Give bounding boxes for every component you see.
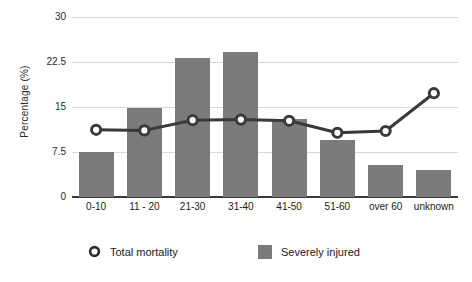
- legend-label: Total mortality: [110, 246, 178, 258]
- data-point-marker: [236, 115, 245, 124]
- x-tick-label: unknown: [410, 201, 458, 212]
- data-point-marker: [429, 89, 438, 98]
- x-tick-label: 0-10: [72, 201, 120, 212]
- data-point-marker: [92, 125, 101, 134]
- x-tick-label: over 60: [362, 201, 410, 212]
- y-axis-title: Percentage (%): [19, 32, 30, 172]
- legend-item-severely-injured: Severely injured: [258, 245, 360, 259]
- line-series-total-mortality: [72, 17, 458, 197]
- chart-container: Percentage (%) 30 22.5 15 7.5 0 0-1011 -…: [0, 0, 472, 282]
- x-tick-label: 11 - 20: [120, 201, 168, 212]
- plot-area: [72, 17, 458, 197]
- circle-open-icon: [88, 245, 101, 258]
- data-point-marker: [333, 128, 342, 137]
- square-swatch-icon: [258, 245, 272, 259]
- data-point-marker: [140, 126, 149, 135]
- data-point-marker: [285, 116, 294, 125]
- legend-label: Severely injured: [281, 246, 360, 258]
- y-tick-label: 0: [20, 191, 66, 202]
- x-tick-label: 41-50: [265, 201, 313, 212]
- x-axis-tick-labels: 0-1011 - 2021-3031-4041-5051-60over 60un…: [72, 201, 458, 217]
- data-point-marker: [381, 126, 390, 135]
- chart-legend: Total mortality Severely injured: [0, 243, 472, 267]
- x-tick-label: 21-30: [169, 201, 217, 212]
- data-point-marker: [188, 116, 197, 125]
- x-tick-label: 51-60: [313, 201, 361, 212]
- y-tick-label: 30: [20, 11, 66, 22]
- legend-item-total-mortality: Total mortality: [88, 245, 178, 258]
- x-tick-label: 31-40: [217, 201, 265, 212]
